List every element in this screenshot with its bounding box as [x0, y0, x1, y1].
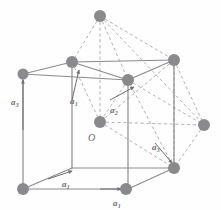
- label-origin: O: [88, 133, 95, 143]
- label-vector-a1-mid: a1: [70, 91, 78, 107]
- dash-origin-to-bottom-right: [100, 122, 174, 168]
- dash-apex-to-top-left-front: [72, 16, 100, 62]
- label-a3-left-base: a: [11, 97, 16, 107]
- label-a1-bottom-sub: 1: [67, 184, 70, 190]
- dash-top-right-to-right-middle: [174, 60, 204, 125]
- node-right-middle: [198, 119, 210, 131]
- node-top-apex: [94, 10, 106, 22]
- node-face-center-top: [122, 74, 134, 86]
- dash-right-mid-to-bottom-right: [174, 125, 204, 168]
- label-a1-bottom-base: a: [62, 179, 67, 189]
- lattice-figure: a3 a1 a2 a3 a1 a1 O: [0, 0, 221, 210]
- node-bottom-right: [168, 162, 180, 174]
- label-vector-a2-right: a2: [110, 100, 118, 116]
- label-vector-a1-bottom: a1: [62, 174, 70, 190]
- label-a1-br-base: a: [113, 198, 118, 208]
- node-top-left-front: [66, 56, 78, 68]
- label-vector-a3-left: a3: [11, 92, 19, 108]
- label-a3-left-sub: 3: [16, 102, 19, 108]
- edge-face-center-top-to-top-right-back: [128, 60, 174, 80]
- vector-arrows-group: [23, 70, 172, 189]
- node-origin-center: [94, 116, 106, 128]
- dash-apex-to-top-right-back: [100, 16, 174, 60]
- node-top-right-back: [168, 54, 180, 66]
- label-a2-right-base: a: [110, 105, 115, 115]
- edge-back-top-left-to-top-left-front: [23, 62, 72, 74]
- edge-bottom-front-to-bottom-right: [128, 168, 174, 189]
- dash-origin-to-right-middle: [100, 122, 204, 125]
- label-a1-mid-base: a: [70, 96, 75, 106]
- node-bottom-left: [17, 183, 29, 195]
- node-bottom-mid-front: [120, 183, 132, 195]
- dash-face-center-to-bot-right: [128, 80, 174, 168]
- label-a1-mid-sub: 1: [75, 101, 78, 107]
- label-a1-br-sub: 1: [118, 203, 121, 209]
- label-a3-lr-base: a: [152, 142, 157, 152]
- node-back-top-left: [18, 69, 29, 80]
- edge-top-left-front-to-top-right-back: [72, 60, 174, 62]
- arrow-a2-right: [110, 87, 134, 100]
- label-vector-a1-bottom-right: a1: [113, 193, 121, 209]
- label-a3-lr-sub: 3: [157, 147, 160, 153]
- dashed-edges-group: [72, 16, 204, 168]
- label-a2-right-sub: 2: [115, 110, 118, 116]
- dash-apex-to-face-center-top: [100, 16, 128, 80]
- label-vector-a3-lower-right: a3: [152, 137, 160, 153]
